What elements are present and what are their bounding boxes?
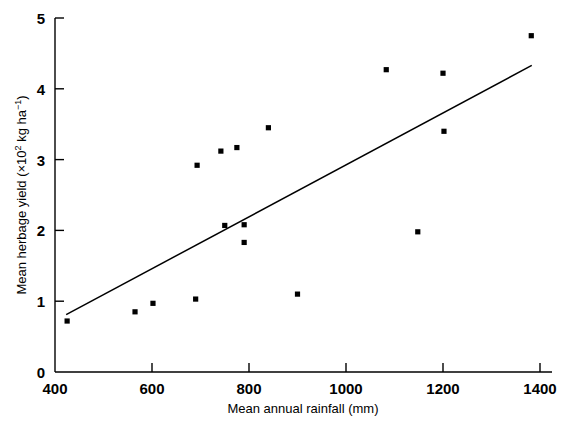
data-point	[415, 229, 420, 234]
y-tick-label-0: 0	[37, 364, 45, 381]
data-point	[218, 149, 223, 154]
data-point	[440, 71, 445, 76]
data-point	[295, 292, 300, 297]
x-tick-label-1200: 1200	[426, 380, 459, 397]
data-point	[242, 240, 247, 245]
y-axis-title: Mean herbage yield (×102 kg ha−1)	[13, 95, 29, 294]
x-tick-label-400: 400	[42, 380, 67, 397]
data-point	[529, 33, 534, 38]
data-point	[242, 222, 247, 227]
y-tick-label-3: 3	[37, 152, 45, 169]
y-tick-label-2: 2	[37, 222, 45, 239]
data-point	[266, 125, 271, 130]
data-point	[384, 67, 389, 72]
data-point	[132, 309, 137, 314]
y-tick-label-5: 5	[37, 10, 45, 27]
data-point	[441, 129, 446, 134]
y-tick-label-4: 4	[37, 81, 46, 98]
x-tick-label-1400: 1400	[523, 380, 556, 397]
scatter-plot: 012345 400600800100012001400 Mean annual…	[0, 0, 585, 425]
data-point	[195, 163, 200, 168]
x-axis-title: Mean annual rainfall (mm)	[227, 401, 378, 416]
chart-figure: 012345 400600800100012001400 Mean annual…	[0, 0, 585, 425]
y-axis-title-exponent-2: −1	[13, 100, 23, 110]
y-axis-title-lead: Mean herbage yield (×10	[14, 150, 29, 294]
x-tick-label-800: 800	[236, 380, 261, 397]
y-axis-title-close: )	[14, 95, 29, 99]
y-tick-label-1: 1	[37, 293, 45, 310]
x-tick-label-1000: 1000	[329, 380, 362, 397]
data-point	[65, 318, 70, 323]
data-point	[193, 296, 198, 301]
data-point	[222, 223, 227, 228]
chart-background	[0, 0, 585, 425]
x-tick-label-600: 600	[139, 380, 164, 397]
data-point	[234, 145, 239, 150]
y-axis-title-tail: kg ha	[14, 109, 29, 145]
y-axis-title-group: Mean herbage yield (×102 kg ha−1)	[13, 95, 29, 294]
data-point	[150, 301, 155, 306]
